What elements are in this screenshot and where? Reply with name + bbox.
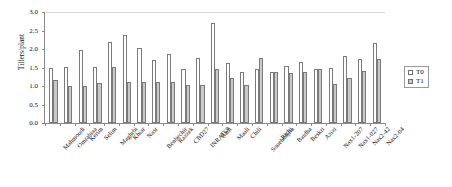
bar-t1 [289, 73, 293, 123]
bar-group [75, 12, 90, 123]
bar-group [369, 12, 384, 123]
bar-group [222, 12, 237, 123]
bar-t1 [186, 85, 190, 123]
legend-label-t0: T0 [416, 69, 424, 76]
bar-group [178, 12, 193, 123]
tillers-per-plant-bar-chart: Tillers/plant 0.00.51.01.52.02.53.0 Mahm… [0, 0, 452, 187]
y-axis-title: Tillers/plant [18, 0, 26, 107]
bar-t1 [333, 84, 337, 123]
bar-group [267, 12, 282, 123]
plot-area: 0.00.51.01.52.02.53.0 [44, 12, 385, 124]
x-axis-label: CBD27 [192, 126, 210, 145]
x-axis-label: Azizi [324, 126, 338, 141]
bar-group [164, 12, 179, 123]
legend-swatch-t1 [408, 79, 413, 84]
bar-t1 [230, 78, 234, 123]
bar-group [252, 12, 267, 123]
y-axis-tick-label: 2.0 [29, 46, 38, 53]
bar-group [311, 12, 326, 123]
y-axis-tick-label: 3.0 [29, 9, 38, 16]
bar-t1 [362, 71, 366, 123]
bar-t1 [215, 69, 219, 123]
legend-item: T1 [408, 78, 424, 85]
legend-item: T0 [408, 69, 424, 76]
bar-group [355, 12, 370, 123]
bar-t1 [244, 85, 248, 123]
bar-group [340, 12, 355, 123]
y-axis-tick-label: 0.0 [29, 120, 38, 127]
bar-t1 [200, 85, 204, 123]
legend-swatch-t0 [408, 70, 413, 75]
bar-t1 [171, 82, 175, 123]
bar-group [296, 12, 311, 123]
x-axis-label: Selim [102, 126, 117, 141]
x-axis-label: Chili [249, 126, 263, 140]
bar-t1 [97, 83, 101, 123]
bar-t1 [318, 69, 322, 123]
bar-group [149, 12, 164, 123]
y-axis-tick-label: 1.0 [29, 83, 38, 90]
bar-t1 [112, 67, 116, 123]
bar-group [46, 12, 61, 123]
bar-group [90, 12, 105, 123]
bar-t1 [83, 86, 87, 123]
bar-t1 [53, 80, 57, 123]
bar-t1 [274, 72, 278, 123]
bar-group [237, 12, 252, 123]
bar-t1 [259, 58, 263, 123]
bar-t1 [377, 59, 381, 123]
bar-series-container [45, 12, 385, 123]
bar-group [105, 12, 120, 123]
y-axis-tick-label: 1.5 [29, 64, 38, 71]
bar-t1 [303, 72, 307, 123]
bar-t1 [68, 86, 72, 123]
bar-group [193, 12, 208, 123]
bar-t1 [347, 78, 351, 124]
legend: T0 T1 [404, 66, 429, 88]
bar-t1 [142, 82, 146, 123]
bar-group [61, 12, 76, 123]
bar-group [325, 12, 340, 123]
x-axis-labels: MahmoudiOmrabiaaKerimSelimMaghrbiKhiarNa… [44, 124, 385, 186]
bar-group [120, 12, 135, 123]
bar-group [208, 12, 223, 123]
x-axis-label: Nasr [146, 126, 159, 139]
y-axis-tick-label: 0.5 [29, 101, 38, 108]
bar-group [281, 12, 296, 123]
y-axis-tick-label: 2.5 [29, 27, 38, 34]
bar-t1 [127, 82, 131, 123]
bar-t1 [156, 82, 160, 123]
bar-group [134, 12, 149, 123]
legend-label-t1: T1 [416, 78, 424, 85]
